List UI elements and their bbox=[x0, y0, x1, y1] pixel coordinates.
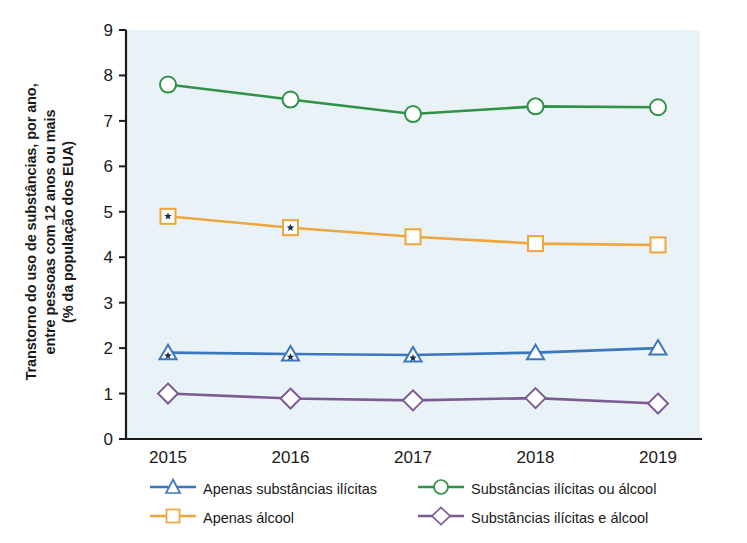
y-tick-label: 6 bbox=[104, 157, 113, 176]
data-point-circle-marker bbox=[650, 99, 666, 115]
legend-item-apenas-alcool[interactable]: Apenas álcool bbox=[150, 503, 418, 532]
data-point-circle-marker bbox=[405, 106, 421, 122]
x-tick-label: 2015 bbox=[149, 448, 187, 467]
y-tick-label: 7 bbox=[104, 112, 113, 131]
y-tick-label: 2 bbox=[104, 339, 113, 358]
data-point-circle-marker bbox=[528, 98, 544, 114]
data-point-square-marker bbox=[406, 229, 421, 244]
data-point-square-marker bbox=[528, 236, 543, 251]
legend-item-apenas-substancias-ilicitas[interactable]: Apenas substâncias ilícitas bbox=[150, 474, 418, 503]
legend-row-2: Apenas álcool Substâncias ilícitas e álc… bbox=[150, 503, 740, 532]
y-tick-label: 5 bbox=[104, 203, 113, 222]
data-point-diamond-marker bbox=[158, 384, 178, 404]
legend-label: Substâncias ilícitas e álcool bbox=[471, 510, 648, 526]
legend-item-substancias-ilicitas-e-alcool[interactable]: Substâncias ilícitas e álcool bbox=[418, 503, 738, 532]
legend-row-1: Apenas substâncias ilícitas Substâncias … bbox=[150, 474, 740, 503]
substance-use-disorder-line-chart: Transtorno do uso de substâncias, por an… bbox=[0, 0, 747, 543]
series-ilicitas_ou_alcool bbox=[160, 77, 666, 123]
legend-label: Apenas substâncias ilícitas bbox=[203, 481, 377, 497]
chart-legend: Apenas substâncias ilícitas Substâncias … bbox=[150, 474, 740, 538]
data-point-square-marker bbox=[651, 237, 666, 252]
x-tick-label: 2018 bbox=[517, 448, 555, 467]
y-tick-label: 9 bbox=[104, 21, 113, 40]
y-tick-label: 8 bbox=[104, 66, 113, 85]
legend-marker-diamond-icon bbox=[418, 505, 464, 531]
data-point-circle-marker bbox=[283, 92, 299, 108]
data-point-diamond-marker bbox=[648, 394, 668, 414]
series-ilicitas_e_alcool bbox=[158, 384, 668, 414]
x-tick-label: 2017 bbox=[394, 448, 432, 467]
data-point-circle-marker bbox=[160, 77, 176, 93]
data-point-diamond-marker bbox=[403, 390, 423, 410]
legend-label: Substâncias ilícitas ou álcool bbox=[471, 481, 656, 497]
y-tick-label: 4 bbox=[104, 248, 113, 267]
legend-label: Apenas álcool bbox=[203, 510, 294, 526]
series-ilicitas bbox=[160, 340, 667, 361]
legend-item-substancias-ilicitas-ou-alcool[interactable]: Substâncias ilícitas ou álcool bbox=[418, 474, 738, 503]
data-point-diamond-marker bbox=[281, 389, 301, 409]
x-tick-label: 2019 bbox=[639, 448, 677, 467]
legend-marker-triangle-icon bbox=[150, 476, 196, 502]
x-tick-label: 2016 bbox=[272, 448, 310, 467]
data-point-diamond-marker bbox=[526, 388, 546, 408]
y-tick-label: 3 bbox=[104, 294, 113, 313]
legend-marker-square-icon bbox=[150, 505, 196, 531]
chart-canvas: 012345678920152016201720182019 bbox=[0, 0, 747, 543]
y-tick-label: 1 bbox=[104, 385, 113, 404]
legend-marker-circle-icon bbox=[418, 476, 464, 502]
series-alcool bbox=[161, 209, 666, 253]
y-tick-label: 0 bbox=[104, 430, 113, 449]
